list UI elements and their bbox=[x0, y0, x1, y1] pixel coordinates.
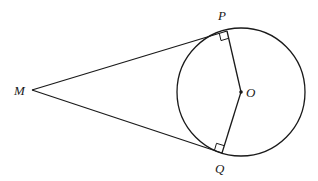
center-dot bbox=[239, 90, 243, 94]
radius-oq bbox=[222, 92, 241, 153]
tangent-mp bbox=[32, 31, 227, 90]
label-p: P bbox=[217, 8, 226, 23]
tangent-mq bbox=[32, 90, 222, 153]
label-o: O bbox=[246, 85, 256, 100]
radius-op bbox=[227, 31, 241, 92]
label-q: Q bbox=[215, 161, 225, 176]
tangent-diagram: M P Q O bbox=[0, 0, 318, 181]
label-m: M bbox=[13, 83, 26, 98]
